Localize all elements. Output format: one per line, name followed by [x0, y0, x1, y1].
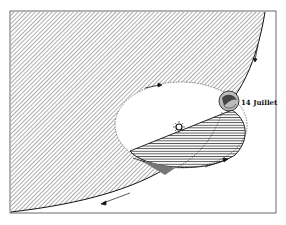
- diagram-svg: [0, 0, 286, 225]
- diagram-canvas: 14 Juillet: [0, 0, 286, 225]
- earth-date-label: 14 Juillet: [241, 98, 277, 107]
- earth-icon: [219, 91, 239, 111]
